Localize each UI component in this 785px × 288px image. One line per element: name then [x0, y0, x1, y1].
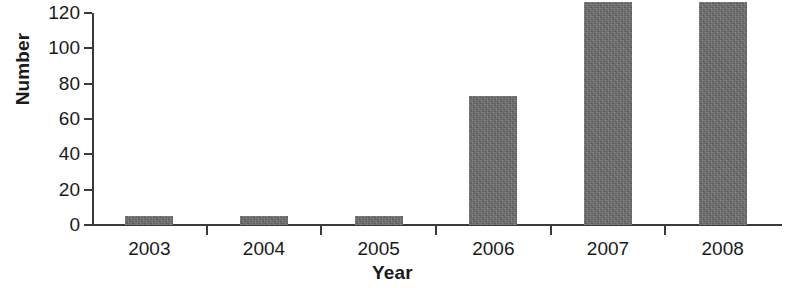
bar — [584, 2, 632, 225]
bar-chart: Number 020406080100120 20032004200520062… — [0, 0, 785, 288]
y-axis-tick-label: 0 — [12, 215, 80, 234]
x-axis-tick — [664, 226, 666, 235]
y-axis-tick — [84, 47, 92, 49]
x-axis-tick — [206, 226, 208, 235]
y-axis-tick — [84, 83, 92, 85]
x-axis-tick-label: 2006 — [433, 239, 553, 258]
bar — [125, 216, 173, 225]
x-axis-tick-label: 2005 — [319, 239, 439, 258]
x-axis-tick — [435, 226, 437, 235]
y-axis-tick-label: 40 — [12, 144, 80, 163]
x-axis-tick-label: 2003 — [89, 239, 209, 258]
x-axis-title: Year — [0, 262, 785, 284]
y-axis-tick — [84, 189, 92, 191]
y-axis-tick — [84, 12, 92, 14]
bar — [469, 96, 517, 225]
y-axis-tick-label: 80 — [12, 74, 80, 93]
y-axis-tick — [84, 224, 92, 226]
bar — [355, 216, 403, 225]
x-axis-tick-label: 2008 — [663, 239, 783, 258]
x-axis-tick — [550, 226, 552, 235]
y-axis-tick — [84, 153, 92, 155]
bar — [699, 2, 747, 225]
y-axis-tick — [84, 118, 92, 120]
x-axis-tick — [320, 226, 322, 235]
x-axis-tick-label: 2007 — [548, 239, 668, 258]
y-axis-tick-label: 100 — [12, 38, 80, 57]
y-axis-tick-label: 60 — [12, 109, 80, 128]
y-axis-tick-label: 120 — [12, 3, 80, 22]
bar — [240, 216, 288, 225]
y-axis-tick-label: 20 — [12, 180, 80, 199]
plot-area — [92, 13, 780, 225]
x-axis-tick-label: 2004 — [204, 239, 324, 258]
